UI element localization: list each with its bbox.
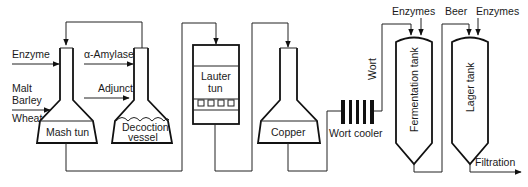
wort-cooler-icon (341, 100, 374, 124)
fermentation-enzymes-label: Enzymes (392, 5, 435, 17)
filtration-label: Filtration (475, 156, 515, 168)
mash-tun: Mash tun (37, 48, 97, 143)
fermentation-tank-label: Fermentation tank (408, 47, 420, 132)
lauter-label-line2: tun (208, 82, 223, 94)
alpha-amylase-input: α-Amylase (84, 48, 134, 64)
enzyme-label: Enzyme (12, 48, 50, 60)
decoction-label-line2: vessel (128, 131, 158, 143)
lager-tank: Lager tank (452, 38, 488, 165)
malt-label: Malt (12, 82, 32, 94)
lager-enzymes-label: Enzymes (476, 5, 519, 17)
wheat-label: Wheat (12, 112, 42, 124)
decoction-return-pipe (66, 22, 142, 48)
copper-label: Copper (271, 126, 306, 138)
copper: Copper (258, 48, 320, 143)
wort-flow-label: Wort (366, 58, 378, 80)
mash-tun-label: Mash tun (46, 126, 89, 138)
barley-label: Barley (12, 94, 43, 106)
wort-cooler-label: Wort cooler (329, 127, 383, 139)
decoction-vessel: Decoction vessel (112, 48, 172, 143)
adjunct-label: Adjunct (98, 82, 133, 94)
adjunct-input: Adjunct (84, 82, 133, 98)
brewing-process-diagram: Enzyme Malt Barley Wheat α-Amylase Adjun… (0, 0, 528, 187)
wort-cooler: Wort cooler (329, 100, 383, 139)
beer-flow-label: Beer (445, 5, 468, 17)
alpha-amylase-label: α-Amylase (84, 48, 134, 60)
lager-tank-label: Lager tank (464, 62, 476, 112)
lauter-label-line1: Lauter (201, 70, 231, 82)
fermentation-tank: Fermentation tank (396, 38, 432, 165)
enzyme-input: Enzyme (12, 48, 59, 64)
lauter-tun: Lauter tun (193, 45, 239, 124)
